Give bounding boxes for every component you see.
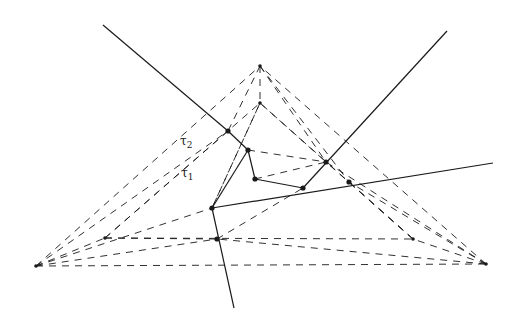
solid-edge — [212, 208, 234, 308]
triangle-vertex — [484, 262, 488, 266]
vertex-dot — [209, 205, 214, 210]
dashed-edge — [260, 66, 326, 162]
vertex-dot — [323, 159, 328, 164]
vertex-dot — [225, 128, 230, 133]
dashed-edge — [228, 66, 260, 131]
solid-edge — [103, 25, 228, 131]
label-tau1-sub: 1 — [188, 172, 194, 182]
dashed-edge — [105, 131, 228, 238]
vertex-dot — [214, 236, 219, 241]
vertex-dot — [245, 147, 250, 152]
solid-edge — [303, 31, 447, 188]
triangle-vertex — [103, 236, 107, 240]
dashed-edge — [255, 162, 326, 179]
vertex-dot — [300, 185, 305, 190]
label-tau1: τ1 — [181, 166, 193, 182]
triangle-vertex — [258, 64, 262, 68]
diagram-canvas: τ2 τ1 — [0, 0, 524, 333]
solid-edge — [212, 163, 493, 208]
triangle-vertex — [258, 101, 262, 105]
dashed-edge — [260, 66, 349, 182]
label-tau2: τ2 — [180, 134, 192, 150]
dashed-edge — [349, 182, 413, 239]
solid-edge — [212, 150, 248, 208]
dashed-edge — [105, 238, 413, 239]
solid-edge — [248, 150, 255, 179]
solid-edge — [255, 179, 303, 188]
dashed-edge — [260, 103, 326, 162]
solid-edge — [228, 131, 248, 150]
label-tau2-sub: 2 — [187, 140, 193, 150]
vertex-dot — [346, 179, 351, 184]
label-tau1-base: τ — [181, 166, 188, 180]
triangle-vertex — [411, 237, 415, 241]
dashed-edge — [36, 264, 486, 266]
dashed-edge — [217, 239, 486, 264]
label-tau2-base: τ — [180, 134, 187, 148]
dashed-edge — [260, 66, 486, 264]
vertex-dot — [252, 176, 257, 181]
triangle-vertex — [34, 264, 38, 268]
voronoi-triangle-diagram — [0, 0, 524, 333]
dashed-edge — [349, 182, 486, 264]
dashed-edge — [413, 239, 486, 264]
dashed-edge — [36, 66, 260, 266]
dashed-edge — [36, 239, 217, 266]
dashed-edge — [36, 131, 228, 266]
dashed-edge — [36, 208, 212, 266]
